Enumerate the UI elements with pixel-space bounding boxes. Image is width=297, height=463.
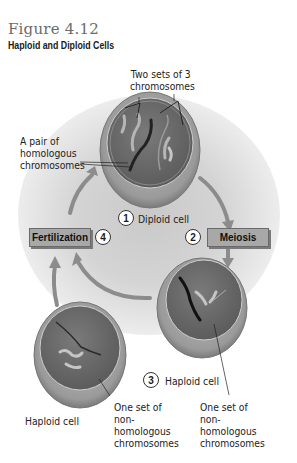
fertilization-box: Fertilization	[29, 228, 91, 247]
label-one-set-right: One set of non-homologous chromosomes	[200, 401, 270, 449]
label-haploid-cell-left: Haploid cell	[25, 415, 79, 427]
step-1-label: Diploid cell	[138, 213, 189, 225]
label-two-sets: Two sets of 3 chromosomes	[130, 68, 192, 92]
arrow-haploid-left-to-fertilization	[54, 265, 57, 305]
label-one-set-left-text: One set of non-homologous chromosomes	[114, 401, 179, 449]
label-pair-homologous: A pair of homologous chromosomes	[20, 135, 86, 171]
step-3-label: Haploid cell	[165, 375, 219, 387]
label-pair-homologous-text: A pair of homologous chromosomes	[20, 135, 85, 171]
diploid-cell	[100, 92, 200, 208]
step-1-badge: 1	[118, 210, 134, 226]
label-one-set-left: One set of non-homologous chromosomes	[114, 401, 184, 449]
arrow-haploid-to-fertilization	[78, 262, 150, 298]
step-3-badge: 3	[143, 372, 159, 388]
label-two-sets-text: Two sets of 3 chromosomes	[130, 68, 195, 92]
arrow-diploid-to-meiosis	[200, 178, 228, 222]
meiosis-box: Meiosis	[207, 228, 269, 247]
haploid-cell-right	[157, 258, 247, 358]
step-2-badge: 2	[185, 229, 201, 245]
arrow-fertilization-to-diploid	[70, 175, 92, 213]
label-one-set-right-text: One set of non-homologous chromosomes	[200, 401, 265, 449]
haploid-cell-left	[34, 302, 126, 408]
step-4-badge: 4	[95, 229, 111, 245]
